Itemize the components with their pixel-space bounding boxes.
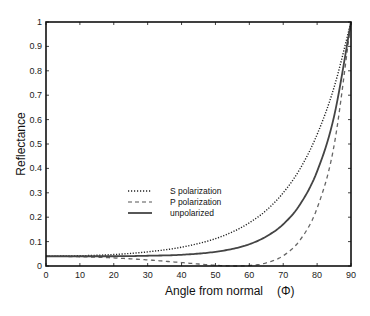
legend-label-p: P polarization (170, 197, 222, 207)
x-tick-label: 50 (210, 270, 220, 280)
y-tick-label: 0.2 (29, 212, 42, 222)
y-tick-label: 0.3 (29, 188, 42, 198)
x-tick-label: 10 (75, 270, 85, 280)
y-tick-label: 0.5 (29, 139, 42, 149)
y-axis-label: Reflectance (14, 112, 28, 176)
y-tick-label: 1 (37, 17, 42, 27)
legend: S polarization P polarization unpolarize… (128, 186, 222, 218)
x-tick-label: 70 (278, 270, 288, 280)
x-tick-label: 80 (312, 270, 322, 280)
y-tick-label: 0.1 (29, 237, 42, 247)
y-tick-label: 0.9 (29, 41, 42, 51)
curve-s-polarization (46, 22, 351, 256)
legend-label-s: S polarization (170, 186, 222, 196)
x-axis-symbol: (Φ) (277, 284, 295, 298)
plot-frame (46, 22, 351, 266)
legend-label-unpolarized: unpolarized (170, 208, 214, 218)
y-tick-label: 0.6 (29, 115, 42, 125)
y-tick-label: 0.4 (29, 163, 42, 173)
x-tick-label: 30 (143, 270, 153, 280)
x-axis-label: Angle from normal (165, 284, 263, 298)
x-tick-label: 60 (244, 270, 254, 280)
x-tick-label: 20 (109, 270, 119, 280)
y-tick-label: 0.7 (29, 90, 42, 100)
curve-p-polarization (46, 22, 351, 266)
x-tick-label: 0 (43, 270, 48, 280)
x-tick-label: 40 (177, 270, 187, 280)
curve-unpolarized (46, 22, 351, 256)
y-tick-label: 0.8 (29, 66, 42, 76)
y-tick-label: 0 (37, 261, 42, 271)
x-tick-label: 90 (346, 270, 356, 280)
plot-curves (46, 22, 351, 266)
y-axis-ticks: 00.10.20.30.40.50.60.70.80.91 (29, 17, 351, 271)
reflectance-chart: 0102030405060708090 00.10.20.30.40.50.60… (0, 0, 370, 316)
